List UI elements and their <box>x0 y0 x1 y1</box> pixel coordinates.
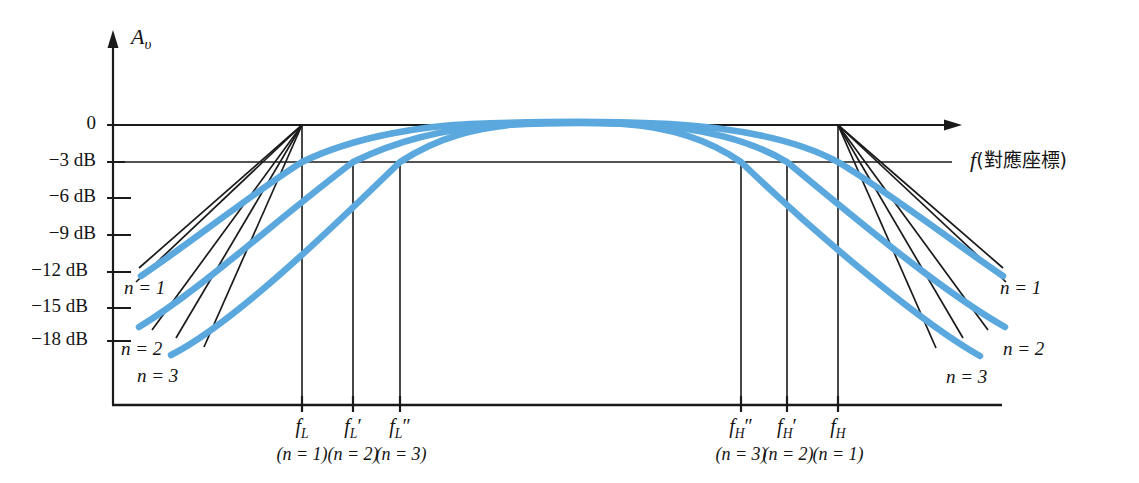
plot-canvas <box>0 0 1139 483</box>
y-tick-marks <box>107 125 131 341</box>
x-axis-title-suffix: (對應座標) <box>976 149 1067 171</box>
x-stage-label-fH: (n = 1) <box>790 444 886 465</box>
x-stage-label-fL-dprime: (n = 3) <box>353 444 449 465</box>
y-tick-label-minus9: −9 dB <box>18 222 96 244</box>
series-label-right-n1: n = 1 <box>1000 277 1041 299</box>
series-label-right-n3: n = 3 <box>946 366 987 388</box>
series-label-left-n1: n = 1 <box>124 277 165 299</box>
y-axis-title: Aυ <box>131 24 151 53</box>
y-tick-label-minus18: −18 dB <box>10 328 88 350</box>
series-label-left-n3: n = 3 <box>137 365 178 387</box>
y-tick-label-minus15: −15 dB <box>10 295 88 317</box>
x-tick-label-fL-dprime: fL″ <box>370 415 430 442</box>
y-tick-label-0: 0 <box>18 112 96 134</box>
x-axis-title: f(對應座標) <box>970 145 1067 173</box>
series-label-left-n2: n = 2 <box>121 338 162 360</box>
y-tick-label-minus6: −6 dB <box>18 185 96 207</box>
y-axis-title-text: A <box>131 24 144 49</box>
axes-group <box>108 30 1003 405</box>
x-tick-label-fH: fH <box>808 415 868 442</box>
y-axis-title-sub: υ <box>144 36 151 52</box>
bode-plot-figure: 0 −3 dB −6 dB −9 dB −12 dB −15 dB −18 dB… <box>0 0 1139 483</box>
series-label-right-n2: n = 2 <box>1003 338 1044 360</box>
y-tick-label-minus12: −12 dB <box>10 259 88 281</box>
curve-n3 <box>171 123 980 357</box>
y-tick-label-minus3: −3 dB <box>18 149 96 171</box>
